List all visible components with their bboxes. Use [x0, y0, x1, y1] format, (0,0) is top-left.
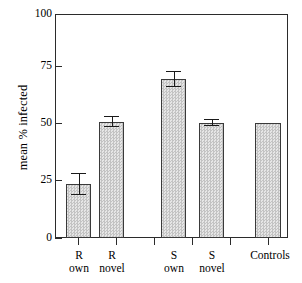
y-tick-mark-100 — [55, 14, 62, 15]
error-bar-s-novel — [204, 119, 219, 126]
y-tick-label-25: 25 — [16, 174, 52, 186]
y-tick-mark-75 — [55, 66, 62, 67]
y-tick-label-100: 100 — [16, 8, 52, 20]
y-tick-label-75: 75 — [16, 60, 52, 72]
x-tick-mark-1 — [78, 238, 79, 245]
y-tick-label-50: 50 — [16, 117, 52, 129]
y-tick-label-0: 0 — [16, 232, 52, 244]
x-tick-mark-2 — [116, 238, 117, 245]
error-bar-cap-top — [71, 173, 86, 174]
error-bar-cap-bottom — [204, 125, 219, 126]
error-bar-r-novel — [104, 116, 119, 127]
y-tick-mark-0 — [55, 238, 62, 239]
error-bar-cap-top — [104, 116, 119, 117]
bar-s-own[interactable] — [161, 79, 186, 238]
x-tick-mark-3 — [154, 238, 155, 245]
bar-s-novel[interactable] — [199, 123, 224, 238]
y-tick-mark-50 — [55, 123, 62, 124]
y-tick-mark-25 — [55, 180, 62, 181]
error-bar-cap-bottom — [71, 194, 86, 195]
x-label-line1: S — [191, 249, 233, 262]
x-label-line1: R — [91, 249, 133, 262]
y-axis-tick-labels: 100 75 50 25 0 — [8, 0, 52, 283]
error-bar-s-own — [166, 71, 181, 87]
bar-r-novel[interactable] — [99, 122, 124, 239]
x-tick-mark-5 — [230, 238, 231, 245]
x-label-s-own: S own — [153, 249, 195, 275]
x-tick-mark-4 — [192, 238, 193, 245]
x-label-r-novel: R novel — [91, 249, 133, 275]
error-bar-r-own — [71, 173, 86, 195]
bar-chart: mean % infected 100 75 50 25 0 — [0, 0, 302, 283]
x-label-line2: novel — [91, 262, 133, 275]
x-label-line1: Controls — [242, 249, 298, 262]
x-label-s-novel: S novel — [191, 249, 233, 275]
error-bar-cap-top — [166, 71, 181, 72]
x-tick-mark-6 — [268, 238, 269, 245]
error-bar-cap-bottom — [166, 86, 181, 87]
error-bar-cap-top — [204, 119, 219, 120]
x-label-line1: S — [153, 249, 195, 262]
bar-controls[interactable] — [255, 123, 281, 238]
error-bar-cap-bottom — [104, 126, 119, 127]
x-label-line2: own — [153, 262, 195, 275]
x-label-controls: Controls — [242, 249, 298, 262]
error-bar-stem — [174, 71, 175, 87]
x-label-line2: novel — [191, 262, 233, 275]
error-bar-stem — [79, 173, 80, 195]
